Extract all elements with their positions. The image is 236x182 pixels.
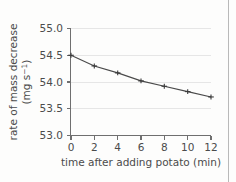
y-axis-title-main: rate of mass decrease bbox=[7, 24, 19, 141]
y-axis-units-close: ) bbox=[20, 60, 32, 64]
data-point-2 bbox=[115, 70, 121, 75]
x-tick-label-6: 12 bbox=[204, 141, 217, 153]
y-tick-label-3: 54.5 bbox=[40, 49, 63, 61]
data-point-4 bbox=[162, 84, 168, 89]
data-point-5 bbox=[185, 89, 191, 94]
y-axis-title: rate of mass decrease (mg s−1) bbox=[7, 24, 32, 141]
y-axis-units-open: (mg s bbox=[20, 75, 32, 105]
y-axis-title-units: (mg s−1) bbox=[20, 60, 33, 105]
data-series bbox=[68, 53, 214, 100]
data-point-3 bbox=[138, 78, 144, 83]
x-tick-label-2: 4 bbox=[114, 141, 121, 153]
x-axis-title: time after adding potato (min) bbox=[61, 156, 221, 168]
x-tick-label-1: 2 bbox=[91, 141, 98, 153]
x-tick-label-3: 6 bbox=[138, 141, 145, 153]
y-tick-label-4: 55.0 bbox=[40, 22, 63, 34]
data-point-1 bbox=[92, 64, 98, 69]
x-tick-label-4: 8 bbox=[161, 141, 168, 153]
data-point-6 bbox=[208, 95, 214, 100]
chart-figure: 55.0 54.5 54.0 53.5 53.0 0 2 4 6 8 10 12… bbox=[0, 0, 236, 182]
x-tick-labels: 0 2 4 6 8 10 12 bbox=[68, 141, 218, 153]
x-tick-label-5: 10 bbox=[181, 141, 194, 153]
y-tick-label-0: 53.0 bbox=[40, 129, 63, 141]
line-chart: 55.0 54.5 54.0 53.5 53.0 0 2 4 6 8 10 12… bbox=[0, 0, 236, 182]
y-axis-units-exponent: −1 bbox=[20, 63, 29, 74]
x-tick-marks bbox=[71, 136, 211, 140]
series-line-rate-of-mass-decrease bbox=[71, 55, 211, 97]
y-tick-label-1: 53.5 bbox=[40, 102, 63, 114]
page-edge-rule bbox=[228, 0, 229, 182]
gridlines bbox=[71, 29, 211, 109]
data-point-0 bbox=[68, 53, 74, 58]
y-tick-labels: 55.0 54.5 54.0 53.5 53.0 bbox=[40, 22, 63, 141]
y-tick-label-2: 54.0 bbox=[40, 76, 63, 88]
x-tick-label-0: 0 bbox=[68, 141, 75, 153]
